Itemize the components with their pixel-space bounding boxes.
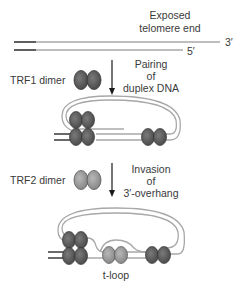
end-5prime-label: 5′ [187, 45, 195, 57]
trf1-dimer-icon [74, 71, 101, 90]
paired-duplex-structure [54, 96, 180, 146]
step2-line2: of [147, 175, 156, 187]
step1-line3: duplex DNA [123, 82, 179, 94]
step1-line2: of [147, 70, 156, 82]
tloop-label: t-loop [103, 269, 129, 281]
arrow-down-icon [109, 60, 115, 95]
trf1-label: TRF1 dimer [10, 74, 66, 86]
step1-line1: Pairing [135, 58, 168, 70]
title-line2: telomere end [139, 22, 200, 34]
trf2-dimer-icon [74, 171, 101, 190]
trf2-label: TRF2 dimer [10, 174, 66, 186]
t-loop-structure [48, 208, 184, 265]
arrow-down-icon [109, 163, 115, 197]
end-3prime-label: 3′ [225, 36, 233, 48]
telomere-tloop-diagram: Exposed telomere end 3′ 5′ TRF1 dimer Pa… [0, 0, 246, 291]
step2-line1: Invasion [131, 163, 170, 175]
step2-line3: 3′-overhang [123, 187, 178, 199]
title-line1: Exposed [150, 9, 191, 21]
